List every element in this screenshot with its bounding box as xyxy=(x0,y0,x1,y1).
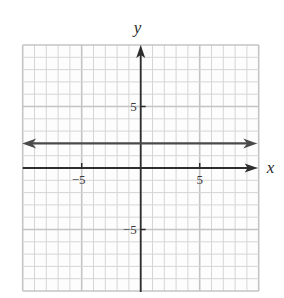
x-tick-label: 5 xyxy=(196,172,203,187)
x-axis-label: x xyxy=(266,158,275,177)
x-tick-label: −5 xyxy=(72,172,86,187)
y-tick-label: −5 xyxy=(123,222,137,237)
y-axis-label: y xyxy=(132,18,142,37)
coordinate-graph: −555−5 x y xyxy=(0,0,284,298)
y-tick-label: 5 xyxy=(130,99,137,114)
